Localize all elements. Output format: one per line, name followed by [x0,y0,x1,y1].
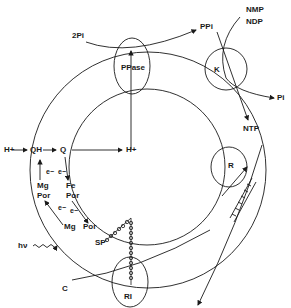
pi-label: Pi [277,94,285,102]
two-pi-label: 2Pi [72,32,84,40]
c-substrate-curve [72,230,210,280]
ntp-label: NTP [243,125,259,133]
c-label: C [62,285,68,293]
nmp-label: NMP [246,6,264,14]
pathway-diagram [0,0,291,308]
electron-label-2: e− [58,168,66,175]
mg-bottom-label: Mg [64,223,76,231]
ppi-label: PPi [200,23,213,31]
kinase-label: K [214,66,220,74]
electron-label-4: e− [70,207,78,214]
sp-coil-chain [103,218,133,285]
mg-por-top-mg-label: Mg [37,182,49,190]
kinase-enzyme [205,48,247,90]
ppase-reaction-arrow [86,30,196,48]
h-plus-outer-label: H+ [4,146,14,154]
mg-por-top-por-label: Por [37,192,50,200]
reaction-center-label: RI [124,293,132,301]
por-bottom-label: Por [83,223,96,231]
ppi-to-ntp-arrow [217,32,248,120]
fe-por-fe-label: Fe [66,182,75,190]
ppase-label: PPase [121,64,145,72]
qh-label: QH [30,146,42,154]
reductase-label: R [228,162,234,170]
light-arrow [33,245,57,248]
ladder-structure [230,178,256,222]
sp-label: SP [95,239,106,247]
ndp-label: NDP [246,18,263,26]
electron-label-3: e− [58,204,66,211]
q-label: Q [60,146,66,154]
h-plus-inner-label: H+ [126,146,136,154]
electron-label-1: e− [46,168,54,175]
fe-por-por-label: Por [66,192,79,200]
hv-label: hν [18,242,27,250]
reductase-input-arrow [222,167,247,196]
